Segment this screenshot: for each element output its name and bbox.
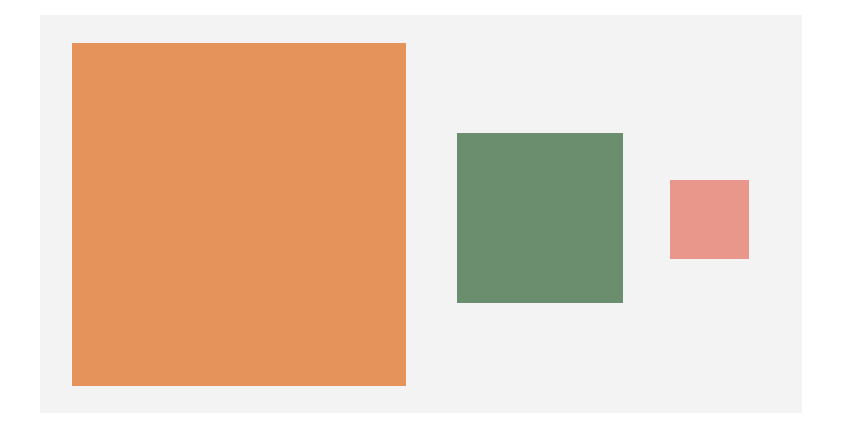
large-orange-rectangle xyxy=(72,43,406,386)
medium-green-square xyxy=(457,133,623,303)
canvas xyxy=(0,0,843,436)
small-pink-square xyxy=(670,180,749,259)
